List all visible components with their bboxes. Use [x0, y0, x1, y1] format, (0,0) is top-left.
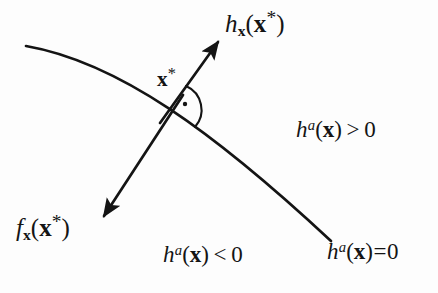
label-region-positive: ha(x)>0: [296, 118, 376, 141]
label-gradient-h-open-paren: (: [245, 10, 253, 37]
label-gradient-h-base: h: [225, 10, 238, 37]
figure-root: hx(x*) x* fx(x*) ha(x)>0 ha(x)<0 ha(x)=0: [0, 0, 438, 293]
label-boundary-curve-operator: =: [373, 239, 386, 264]
label-boundary-curve-open-paren: (: [346, 239, 354, 264]
label-boundary-curve-value: 0: [387, 239, 399, 264]
label-region-negative-value: 0: [231, 242, 243, 267]
perpendicularity-dot-icon: [183, 102, 187, 106]
label-boundary-curve-argument: x: [354, 239, 366, 264]
gradient-f-arrow: [104, 95, 183, 216]
label-gradient-h-argument-superscript: *: [266, 7, 276, 28]
label-gradient-f-subscript: x: [23, 226, 31, 243]
label-boundary-curve-close-paren: ): [365, 239, 373, 264]
label-gradient-f-close-paren: ): [62, 214, 70, 241]
label-region-negative-base: h: [163, 242, 175, 267]
label-region-positive-operator: >: [347, 117, 360, 142]
label-gradient-f-base: f: [16, 214, 23, 241]
constraint-boundary-curve: [26, 46, 331, 241]
label-boundary-curve-base: h: [327, 239, 339, 264]
label-region-negative-close-paren: ): [201, 242, 209, 267]
label-gradient-f-argument: x: [39, 214, 52, 241]
label-region-positive-value: 0: [364, 117, 376, 142]
label-optimum-point-base: x: [157, 67, 168, 91]
label-region-negative-operator: <: [214, 242, 227, 267]
label-region-positive-argument: x: [323, 117, 335, 142]
label-optimum-point-superscript: *: [168, 64, 176, 83]
label-gradient-f-open-paren: (: [31, 214, 39, 241]
label-gradient-f-argument-superscript: *: [52, 211, 62, 232]
label-optimum-point: x*: [157, 66, 176, 90]
label-gradient-h-argument: x: [254, 10, 267, 37]
label-gradient-h: hx(x*): [225, 8, 284, 39]
label-gradient-h-close-paren: ): [276, 10, 284, 37]
label-region-negative: ha(x)<0: [163, 243, 243, 266]
label-gradient-f: fx(x*): [16, 212, 70, 243]
label-region-positive-base: h: [296, 117, 308, 142]
label-region-positive-close-paren: ): [334, 117, 342, 142]
label-region-negative-open-paren: (: [182, 242, 190, 267]
label-region-positive-open-paren: (: [315, 117, 323, 142]
label-boundary-curve: ha(x)=0: [327, 240, 398, 263]
label-region-negative-argument: x: [190, 242, 202, 267]
